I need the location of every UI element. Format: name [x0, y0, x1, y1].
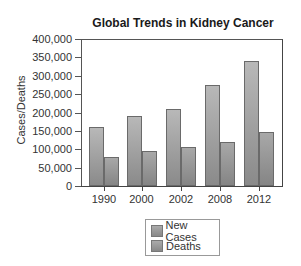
x-axis-line [81, 186, 283, 187]
bar-deaths-2008 [220, 142, 235, 186]
y-tick-label: 0 [0, 180, 72, 192]
x-tick-label: 2000 [122, 193, 162, 205]
bar-deaths-2000 [142, 151, 157, 186]
bar-new-cases-2002 [166, 109, 181, 186]
legend-swatch-new-cases [151, 225, 163, 237]
y-tick-label: 300,000 [0, 70, 72, 82]
y-tick-label: 350,000 [0, 51, 72, 63]
plot-area [81, 39, 283, 186]
bar-deaths-2012 [259, 132, 274, 186]
x-tick [104, 186, 105, 191]
y-tick-label: 400,000 [0, 33, 72, 45]
bar-new-cases-2012 [244, 61, 259, 186]
x-tick-label: 1990 [84, 193, 124, 205]
y-tick-label: 150,000 [0, 125, 72, 137]
legend-item-new-cases: New Cases [151, 224, 219, 238]
x-tick-label: 2012 [239, 193, 279, 205]
bar-new-cases-2000 [127, 116, 142, 186]
x-tick [220, 186, 221, 191]
bar-new-cases-2008 [205, 85, 220, 186]
bar-deaths-1990 [104, 157, 119, 186]
legend: New Cases Deaths [145, 219, 220, 256]
legend-swatch-deaths [151, 240, 163, 252]
legend-label-deaths: Deaths [166, 240, 201, 252]
bar-deaths-2002 [181, 147, 196, 186]
bar-new-cases-1990 [89, 127, 104, 186]
y-tick-label: 50,000 [0, 162, 72, 174]
x-tick [259, 186, 260, 191]
legend-item-deaths: Deaths [151, 239, 201, 253]
x-tick-label: 2008 [200, 193, 240, 205]
x-tick [181, 186, 182, 191]
y-tick-label: 100,000 [0, 143, 72, 155]
y-tick-label: 250,000 [0, 88, 72, 100]
chart-title: Global Trends in Kidney Cancer [82, 16, 284, 30]
x-tick [142, 186, 143, 191]
y-tick-label: 200,000 [0, 107, 72, 119]
x-tick-label: 2002 [161, 193, 201, 205]
